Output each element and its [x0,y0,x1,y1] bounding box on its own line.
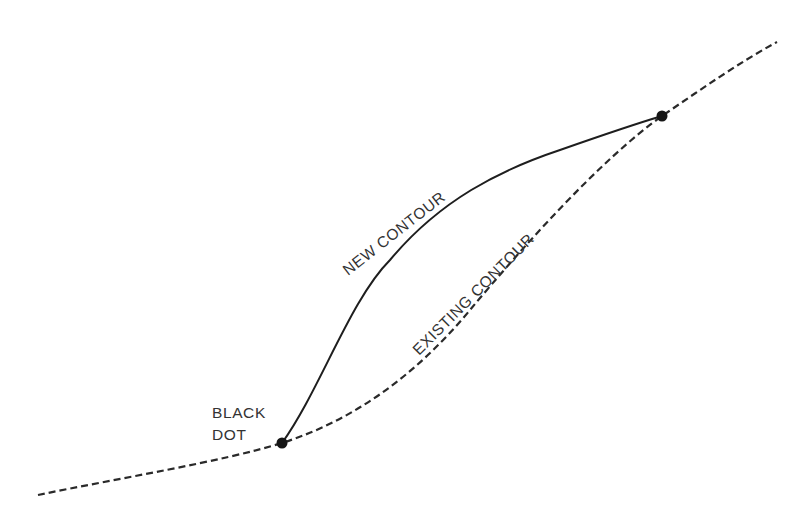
contour-diagram: NEW CONTOUR EXISTING CONTOUR BLACK DOT [0,0,809,522]
upper-black-dot-icon [657,111,668,122]
new-contour-line [282,116,662,443]
black-dot-label-line1: BLACK [212,404,266,421]
existing-contour-label: EXISTING CONTOUR [409,230,537,358]
new-contour-label: NEW CONTOUR [339,188,448,278]
black-dot-label-line2: DOT [212,426,247,443]
lower-black-dot-icon [277,438,288,449]
existing-contour-line [38,42,777,495]
